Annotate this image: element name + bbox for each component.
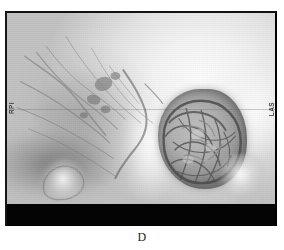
volume-rendering-area <box>7 13 275 204</box>
ct-scan-frame <box>5 11 277 226</box>
mastoid-process-highlight <box>213 154 272 204</box>
orientation-label-right: LAS <box>269 102 276 116</box>
orientation-label-left: RPI <box>9 102 16 114</box>
figure-panel: RPI LAS D <box>0 0 284 250</box>
reference-line <box>7 109 275 110</box>
panel-caption: D <box>0 230 284 245</box>
black-band <box>7 204 275 225</box>
